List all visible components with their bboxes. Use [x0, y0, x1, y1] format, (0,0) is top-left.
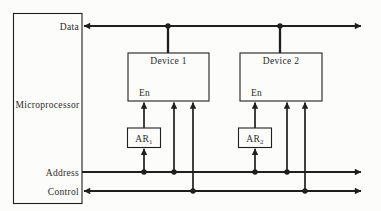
junction-dot: [171, 169, 176, 174]
data-bus-label: Data: [60, 22, 80, 32]
junction-dot: [190, 188, 195, 193]
junction-dot: [165, 23, 170, 28]
junction-dot: [302, 188, 307, 193]
junction-dot: [277, 23, 282, 28]
ar1-label: AR1: [135, 134, 153, 145]
bus-architecture-diagram: Microprocessor Data Address Control Devi…: [0, 0, 381, 211]
address-bus-label: Address: [46, 168, 79, 178]
ar2-label: AR2: [246, 134, 264, 145]
device1-enable-label: En: [139, 88, 150, 98]
junction-dot: [141, 169, 146, 174]
device2-enable-label: En: [251, 88, 262, 98]
control-bus-label: Control: [48, 187, 79, 197]
device1-label: Device 1: [150, 56, 186, 66]
junction-dot: [284, 169, 289, 174]
microprocessor-label: Microprocessor: [16, 100, 80, 110]
device2-label: Device 2: [263, 56, 299, 66]
junction-dot: [252, 169, 257, 174]
diagram-canvas: Microprocessor Data Address Control Devi…: [0, 0, 381, 211]
